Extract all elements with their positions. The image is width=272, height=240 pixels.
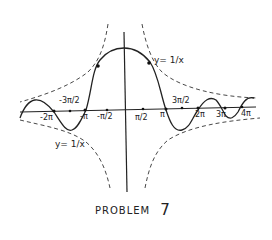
problem-label: PROBLEM [95,205,150,216]
problem-title: PROBLEM7 [95,201,171,219]
axis-label-neg-3pi-2: -3π/2 [59,97,80,105]
axis-label-neg-pi-2: -π/2 [97,113,113,121]
axis-label-pi-2: π/2 [135,114,148,122]
axis-label-pi: π [160,111,165,119]
envelope-label-lower: y= 1/x [55,140,85,149]
axis-label-3pi-2: 3π/2 [172,97,190,105]
axis-label-2pi: 2π [195,111,205,119]
problem-number: 7 [160,201,171,219]
envelope-curves [20,24,260,188]
y-axis [124,32,127,192]
axis-label-4pi: 4π [241,110,251,118]
envelope-label-upper: y= 1/x [154,56,184,65]
tangent-points [96,61,151,68]
axis-label-neg-pi: -π [80,113,88,121]
axis-label-3pi: 3π [216,111,226,119]
axis-label-neg-2pi: -2π [40,114,53,122]
